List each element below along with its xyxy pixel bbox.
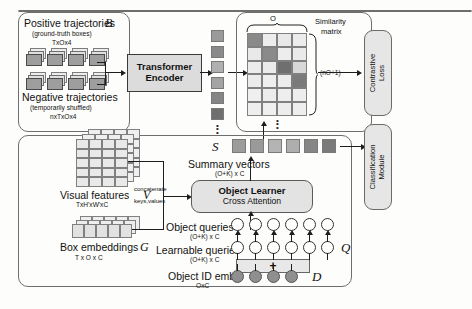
contrastive-loss-block[interactable]: ContrastiveLoss	[364, 30, 392, 116]
feature-cell	[102, 158, 115, 168]
contrastive-loss-line1: Contrastive	[368, 54, 377, 92]
feature-cell	[89, 139, 102, 149]
arrow-head	[235, 230, 241, 235]
negative-trajectories-dims: nxTxOx4	[50, 114, 76, 121]
trajectory-icon	[47, 48, 67, 65]
object-queries-label: Object queries	[166, 222, 234, 233]
box-embedding-cell	[120, 224, 132, 238]
trajectory-icon	[68, 48, 88, 65]
id-emb-connector	[237, 264, 238, 271]
token-column-ellipsis: •••	[216, 124, 219, 134]
trajectory-icon	[68, 72, 88, 89]
query-arrow-group	[231, 231, 339, 243]
plus-connector	[237, 253, 238, 260]
summary-vectors-dims: (O+K) x C	[215, 171, 245, 178]
summary-vectors-label: Summary vectors	[188, 159, 270, 170]
negative-trajectories-sub: (temporarily shuffled)	[30, 105, 92, 112]
summary-vector	[250, 139, 264, 153]
keys-values-label: keys,values	[134, 198, 165, 204]
similarity-cell	[262, 61, 277, 75]
feature-cell	[89, 177, 102, 187]
box-embedding-cell	[96, 224, 108, 238]
arrow-head	[261, 121, 267, 126]
plus-connector	[291, 253, 292, 260]
id-emb-connector	[291, 264, 292, 271]
object-queries-row	[231, 218, 339, 232]
feature-cell	[102, 168, 115, 178]
summary-vector	[232, 139, 246, 153]
arrow-head	[357, 70, 362, 76]
brace-right-icon	[308, 33, 318, 116]
positive-trajectories-symbol: B	[105, 17, 112, 29]
similarity-matrix-label-line2: matrix	[321, 28, 342, 36]
similarity-matrix-label-line1: Similarity	[315, 18, 346, 26]
id-emb-connector	[273, 264, 274, 271]
summary-vectors-symbol: S	[212, 140, 219, 153]
similarity-cell	[277, 47, 292, 61]
plus-stem-group	[231, 253, 339, 261]
object-id-embs-symbol: D	[312, 270, 321, 283]
feature-cell	[115, 139, 128, 149]
similarity-cell	[262, 33, 277, 47]
classification-module-block[interactable]: ClassificationModule	[364, 124, 392, 210]
similarity-cell	[247, 61, 262, 75]
brace-top-icon	[246, 23, 308, 32]
similarity-cell	[262, 102, 277, 116]
box-embeddings-layer-front	[72, 224, 132, 238]
similarity-cell	[247, 88, 262, 102]
feature-cell	[76, 139, 89, 149]
similarity-cell	[292, 61, 307, 75]
connector-line	[340, 146, 362, 147]
visual-features-layer-front	[76, 139, 128, 187]
arrow-head	[248, 211, 254, 216]
classification-module-line2: Module	[377, 155, 386, 180]
feature-cell	[115, 168, 128, 178]
similarity-cell	[247, 47, 262, 61]
similarity-cell	[292, 74, 307, 88]
similarity-cell	[292, 102, 307, 116]
id-emb-connector	[255, 264, 256, 271]
feature-cell	[115, 149, 128, 159]
similarity-cell	[247, 74, 262, 88]
similarity-matrix[interactable]	[247, 33, 307, 116]
encoder-token	[211, 77, 224, 89]
query-connector	[291, 234, 292, 242]
summary-vector	[286, 139, 300, 153]
connector-line	[97, 62, 106, 63]
similarity-cell	[277, 74, 292, 88]
query-connector	[237, 234, 238, 242]
encoder-token	[211, 92, 224, 104]
query-connector	[309, 234, 310, 242]
connector-line	[97, 84, 106, 85]
similarity-cell	[277, 61, 292, 75]
matrix-top-label: O	[270, 15, 276, 23]
id-emb-stem-group	[231, 264, 307, 272]
connector-line	[128, 161, 164, 162]
positive-trajectories-label: Positive trajectories	[24, 18, 115, 29]
feature-cell	[102, 177, 115, 187]
similarity-cell	[277, 102, 292, 116]
feature-cell	[102, 139, 115, 149]
feature-cell	[102, 149, 115, 159]
similarity-cell	[262, 88, 277, 102]
similarity-cell	[292, 88, 307, 102]
connector-line	[163, 161, 164, 229]
plus-connector	[309, 253, 310, 260]
feature-cell	[76, 168, 89, 178]
box-embeddings-label: Box embeddings	[60, 242, 138, 253]
feature-cell	[89, 158, 102, 168]
object-id-embs-label: Object ID embs	[168, 271, 240, 282]
connector-line	[132, 229, 164, 230]
learnable-queries-label: Learnable queries	[156, 245, 240, 256]
positive-trajectories-sub: (ground-truth boxes)	[32, 31, 92, 38]
similarity-cell	[292, 33, 307, 47]
transformer-encoder-block[interactable]: Transformer Encoder	[127, 54, 202, 92]
arrow-head	[307, 230, 313, 235]
encoder-token	[211, 61, 224, 73]
classification-module-text: ClassificationModule	[369, 145, 386, 190]
visual-features-label: Visual features	[60, 190, 129, 201]
connector-line	[163, 196, 188, 197]
encoder-token-column	[211, 30, 225, 122]
object-learner-block[interactable]: Object Learner Cross Attention	[191, 180, 313, 213]
